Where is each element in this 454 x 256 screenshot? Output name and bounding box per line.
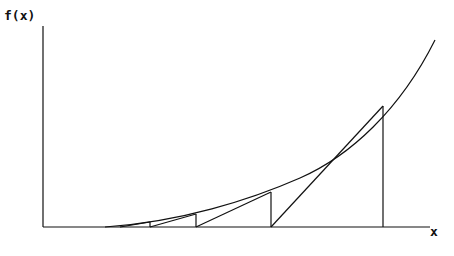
function-curve bbox=[105, 40, 435, 227]
tangent-line-4 bbox=[120, 222, 150, 227]
y-axis-label: f(x) bbox=[4, 8, 35, 23]
tangent-line-1 bbox=[271, 106, 383, 227]
newton-method-diagram: f(x) x bbox=[0, 0, 454, 256]
x-axis-label: x bbox=[430, 224, 438, 239]
